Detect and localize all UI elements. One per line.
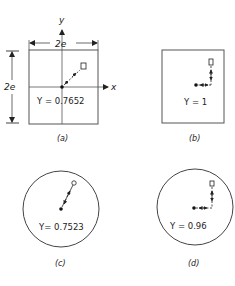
path-arrow	[67, 191, 70, 197]
target-point	[72, 181, 76, 185]
path-arrow	[64, 199, 66, 204]
origin-point	[59, 207, 63, 211]
origin-point	[60, 85, 64, 89]
panel-a: y x 2e 2e Y = 0.7652 (a)	[4, 15, 117, 143]
target-square	[210, 181, 214, 186]
panel-d: Y = 0.96 (d)	[157, 169, 233, 268]
gamma-value: Y = 0.7652	[36, 96, 84, 106]
square-region-b	[162, 50, 224, 123]
panel-b: Y = 1 (b)	[162, 50, 224, 143]
caption-a: (a)	[57, 134, 68, 143]
gamma-value: Y= 0.7523	[38, 222, 84, 232]
caption-d: (d)	[188, 259, 199, 268]
gamma-value: Y = 1	[183, 97, 207, 107]
target-square	[81, 63, 86, 69]
width-label: 2e	[55, 39, 67, 49]
panel-c: Y= 0.7523 (c)	[23, 171, 99, 268]
y-axis-label: y	[58, 15, 65, 25]
gamma-value: Y = 0.96	[169, 221, 207, 231]
origin-point	[192, 206, 196, 210]
x-axis-label: x	[110, 82, 117, 92]
caption-c: (c)	[55, 259, 66, 268]
origin-point	[194, 83, 198, 87]
caption-b: (b)	[189, 134, 200, 143]
diagram-canvas: y x 2e 2e Y = 0.7652 (a) Y = 1 (b)	[0, 0, 235, 286]
target-square	[209, 59, 213, 65]
height-label: 2e	[4, 82, 16, 92]
path-arrow	[72, 73, 76, 77]
path-arrow	[65, 81, 68, 84]
